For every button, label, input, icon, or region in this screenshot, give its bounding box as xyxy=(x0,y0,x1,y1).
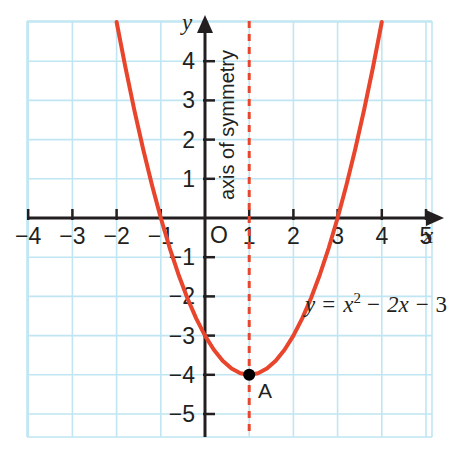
origin-label: O xyxy=(210,222,228,248)
y-tick-label: −4 xyxy=(169,362,195,388)
equation-lhs: y xyxy=(303,292,316,317)
svg-text:y=x2−2x−3: y=x2−2x−3 xyxy=(303,290,447,317)
vertex-point-label: A xyxy=(258,379,272,402)
equation-equals: = xyxy=(322,292,335,317)
axis-of-symmetry-label: axis of symmetry xyxy=(216,50,238,200)
y-tick-label: 2 xyxy=(182,127,195,153)
equation-label: y=x2−2x−3 xyxy=(303,290,447,317)
equation-term1-exponent: 2 xyxy=(353,290,361,306)
y-tick-label: 4 xyxy=(182,48,195,74)
y-tick-label: 1 xyxy=(182,166,195,192)
equation-minus-1: − xyxy=(367,292,380,317)
y-axis-name: y xyxy=(180,10,193,35)
x-tick-label: 2 xyxy=(287,223,300,249)
coordinate-plane-svg: −4−3−2−112345 4321−1−2−3−4−5 O y x axis … xyxy=(0,0,471,463)
y-tick-label: −3 xyxy=(169,323,195,349)
equation-term3: 3 xyxy=(436,292,448,317)
x-tick-label: −3 xyxy=(59,223,85,249)
equation-term2: 2x xyxy=(387,292,410,317)
y-tick-label: −5 xyxy=(169,401,195,427)
x-tick-label: −4 xyxy=(15,223,41,249)
graph-figure: −4−3−2−112345 4321−1−2−3−4−5 O y x axis … xyxy=(0,0,471,463)
x-tick-label: −2 xyxy=(103,223,129,249)
vertex-point-a xyxy=(243,369,255,381)
x-axis-name: x xyxy=(422,223,434,248)
y-tick-label: 3 xyxy=(182,87,195,113)
equation-minus-2: − xyxy=(416,292,429,317)
equation-term1-base: x xyxy=(342,292,354,317)
x-tick-label: 4 xyxy=(375,223,388,249)
